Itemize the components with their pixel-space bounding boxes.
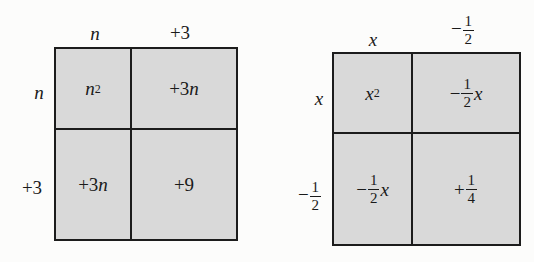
cell-coef: +3: [78, 175, 98, 194]
row-header-minus-half: −12: [288, 180, 332, 213]
cell-var: n: [189, 79, 199, 98]
column-header-n: n: [80, 24, 110, 43]
cell-minus-half-x-top: −12x: [413, 54, 519, 132]
denominator: 2: [370, 190, 378, 206]
row-header-x: x: [308, 89, 330, 108]
cell-n-squared: n2: [56, 49, 130, 128]
cell-3n-top: +3n: [132, 49, 236, 128]
cell-plus9: +9: [132, 130, 236, 239]
cell-exponent: 2: [374, 87, 380, 99]
cell-var: n: [98, 175, 108, 194]
sign: −: [298, 184, 309, 205]
cell-base: x: [365, 84, 373, 103]
cell-base: n: [85, 79, 95, 98]
numerator: 1: [368, 173, 380, 190]
fraction: 12: [368, 173, 380, 206]
row-header-n: n: [28, 83, 50, 102]
cell-x-squared: x2: [334, 54, 411, 132]
sign: −: [356, 180, 367, 199]
fraction: 12: [310, 180, 322, 213]
numerator: 1: [466, 173, 478, 190]
denominator: 2: [463, 94, 471, 110]
area-grid-right: x2 −12x −12x +14: [332, 52, 521, 246]
sign: +: [454, 180, 465, 199]
numerator: 1: [461, 77, 473, 94]
column-header-x: x: [358, 30, 388, 49]
column-header-plus3: +3: [155, 23, 205, 42]
denominator: 2: [312, 197, 320, 213]
cell-var: x: [380, 180, 388, 199]
cell-minus-half-x-bottom: −12x: [334, 134, 411, 244]
numerator: 1: [463, 14, 475, 31]
fraction: 12: [461, 77, 473, 110]
cell-var: x: [474, 84, 482, 103]
sign: −: [451, 18, 462, 39]
row-header-plus3: +3: [12, 178, 52, 197]
fraction: 12: [463, 14, 475, 47]
denominator: 4: [468, 190, 476, 206]
area-grid-left: n2 +3n +3n +9: [54, 47, 238, 241]
cell-plus-quarter: +14: [413, 134, 519, 244]
denominator: 2: [465, 31, 473, 47]
fraction: 14: [466, 173, 478, 206]
numerator: 1: [310, 180, 322, 197]
column-header-minus-half: −12: [438, 14, 488, 47]
cell-coef: +3: [169, 79, 189, 98]
sign: −: [450, 84, 461, 103]
cell-3n-bottom: +3n: [56, 130, 130, 239]
cell-exponent: 2: [95, 83, 101, 95]
